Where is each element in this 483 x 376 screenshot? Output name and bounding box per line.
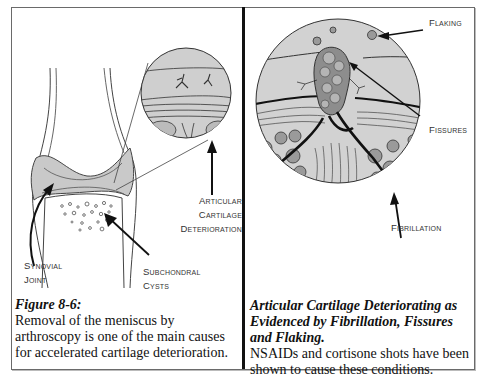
label-line: Synovial xyxy=(24,259,62,273)
label-flaking: Flaking xyxy=(429,16,462,30)
label-fibrillation: Fibrillation xyxy=(391,221,441,235)
figure-description: Removal of the meniscus by arthroscopy i… xyxy=(15,313,241,361)
figure-description: NSAIDs and cortisone shots have been sho… xyxy=(250,346,470,376)
label-articular-cartilage-deterioration: Articular Cartilage Deterioration xyxy=(142,194,242,236)
label-subchondral-cysts: Subchondral Cysts xyxy=(143,265,201,293)
left-panel: Articular Cartilage Deterioration Synovi… xyxy=(12,8,242,368)
label-fissures: Fissures xyxy=(429,123,467,137)
label-line: Subchondral xyxy=(143,265,201,279)
right-caption: Articular Cartilage Deteriorating as Evi… xyxy=(250,298,470,376)
label-line: Cartilage xyxy=(142,208,242,222)
label-line: Cysts xyxy=(143,279,201,293)
left-caption: Figure 8-6: Removal of the meniscus by a… xyxy=(15,297,241,361)
label-line: Joint xyxy=(24,273,62,287)
right-panel: Flaking Fissures Fibrillation Articular … xyxy=(245,8,473,368)
figure-title: Articular Cartilage Deteriorating as Evi… xyxy=(250,298,470,346)
label-line: Deterioration xyxy=(142,222,242,236)
figure-title: Figure 8-6: xyxy=(15,297,241,313)
label-line: Articular xyxy=(142,194,242,208)
label-synovial-joint: Synovial Joint xyxy=(24,259,62,287)
cartilage-magnified-illustration xyxy=(245,8,473,288)
knee-joint-illustration xyxy=(12,8,242,288)
